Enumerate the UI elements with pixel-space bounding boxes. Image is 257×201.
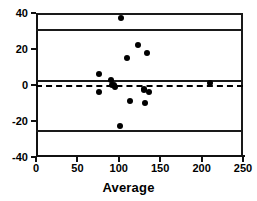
x-tick-label: 0 bbox=[16, 163, 56, 174]
x-tick-label: 100 bbox=[99, 163, 139, 174]
y-tick-label: 20 bbox=[16, 44, 28, 55]
x-tick-mark bbox=[76, 157, 78, 162]
x-tick-label: 250 bbox=[223, 163, 257, 174]
y-tick-label: -40 bbox=[12, 152, 28, 163]
x-tick-mark bbox=[118, 157, 120, 162]
x-axis-title: Average bbox=[0, 180, 257, 195]
y-tick-label: 0 bbox=[22, 80, 28, 91]
x-tick-mark bbox=[242, 157, 244, 162]
y-tick-label: 40 bbox=[16, 8, 28, 19]
x-tick-mark bbox=[201, 157, 203, 162]
x-tick-label: 150 bbox=[140, 163, 180, 174]
x-tick-label: 50 bbox=[57, 163, 97, 174]
x-tick-mark bbox=[159, 157, 161, 162]
x-tick-mark bbox=[35, 157, 37, 162]
x-tick-label: 200 bbox=[182, 163, 222, 174]
plot-frame bbox=[36, 13, 243, 157]
x-axis-line bbox=[36, 155, 245, 157]
bland-altman-chart: 40200-20-40 050100150200250 Average bbox=[0, 0, 257, 201]
y-axis-line bbox=[36, 13, 38, 157]
y-tick-label: -20 bbox=[12, 116, 28, 127]
